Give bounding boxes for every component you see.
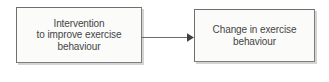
arrow-right-icon <box>140 29 196 45</box>
diagram-node-intervention-label: Intervention to improve exercise behavio… <box>33 18 126 53</box>
flow-diagram: Intervention to improve exercise behavio… <box>0 0 329 82</box>
diagram-node-change[interactable]: Change in exercise behaviour <box>194 9 315 62</box>
diagram-node-change-label: Change in exercise behaviour <box>209 24 301 47</box>
arrowhead <box>187 33 194 42</box>
diagram-node-intervention[interactable]: Intervention to improve exercise behavio… <box>16 7 142 63</box>
